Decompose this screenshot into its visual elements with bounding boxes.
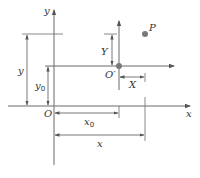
shifted-origin-point — [116, 63, 122, 69]
main-y-axis-label: y — [43, 5, 50, 16]
x-label: x — [97, 138, 103, 149]
shifted-origin-label: O′ — [105, 69, 116, 80]
y-label: y — [17, 65, 24, 76]
x0-label: x0 — [84, 116, 94, 129]
main-x-axis-label: x — [186, 108, 192, 119]
X-label: X — [128, 79, 137, 90]
Y-label: Y — [101, 46, 109, 57]
point-p-label: P — [148, 22, 156, 33]
coordinate-diagram: y x O O′ P Y X y y0 x0 x — [0, 0, 200, 178]
origin-label: O — [44, 108, 52, 119]
point-p — [142, 31, 148, 37]
y0-label: y0 — [34, 80, 45, 93]
